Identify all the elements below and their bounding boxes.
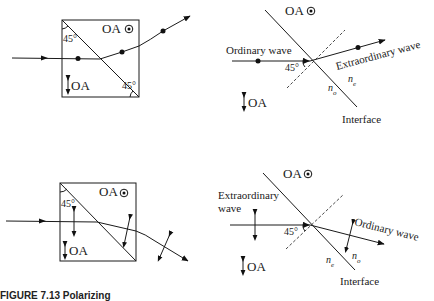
dot-in-circle-icon: [304, 170, 312, 178]
angle-label: 45°: [285, 62, 299, 73]
panel-top-right: OA 45° Ordinary wave Extraordinary wave …: [226, 3, 422, 125]
polarization-dot-icon: [161, 29, 166, 34]
angle-label: 45°: [284, 226, 298, 237]
optic-axis-label-top: OA: [102, 21, 121, 36]
interface-line: [263, 173, 355, 270]
extraordinary-wave-label-line1: Extraordinary: [218, 189, 280, 201]
optic-axis-label-bottom: OA: [248, 95, 267, 110]
extraordinary-wave-label-line2: wave: [218, 202, 241, 214]
beam-direction-arrow-icon: [39, 219, 46, 224]
polarization-dot-icon: [76, 56, 81, 61]
refracted-beam: [97, 222, 188, 261]
angle-arc-top: [62, 26, 68, 29]
optic-axis-label-bottom: OA: [69, 243, 88, 258]
angle-label-top: 45°: [63, 33, 77, 44]
incident-beam: [6, 221, 97, 222]
optic-axis-label-bottom: OA: [247, 259, 266, 274]
polarization-arrow-icon: [124, 217, 130, 245]
polarization-dot-icon: [120, 50, 125, 55]
polarization-dot-icon: [256, 59, 261, 64]
extraordinary-wave-label: Extraordinary wave: [334, 38, 421, 72]
panel-top-left: 45° 45° OA OA: [12, 16, 190, 97]
dot-in-circle-icon: [125, 25, 133, 33]
angle-label-bottom: 45°: [122, 80, 136, 91]
refractive-index-extraordinary: ne: [326, 254, 334, 269]
polarization-arrow-icon: [159, 234, 170, 259]
dot-in-circle-icon: [307, 7, 315, 15]
optic-axis-label-top: OA: [285, 3, 304, 18]
optic-axis-label-top: OA: [99, 184, 118, 199]
interface-label: Interface: [340, 275, 379, 287]
interface-label: Interface: [342, 113, 381, 125]
polarization-dot-icon: [356, 45, 361, 50]
normal-line: [286, 194, 344, 249]
figure-caption: FIGURE 7.13 Polarizing: [0, 290, 111, 301]
refractive-index-ordinary: no: [352, 250, 361, 265]
beam-direction-arrow-icon: [41, 56, 48, 61]
angle-arc-bottom: [130, 91, 133, 97]
angle-label-top: 45°: [61, 198, 75, 209]
incident-beam: [12, 58, 100, 59]
angle-arc-top: [60, 189, 67, 192]
optic-axis-label-bottom: OA: [71, 78, 90, 93]
panel-bottom-right: OA 45° Extraordinary wave Ordinary wave …: [218, 166, 420, 287]
panel-bottom-left: 45° OA OA: [6, 183, 188, 261]
refractive-index-extraordinary: ne: [348, 73, 356, 88]
optic-axis-label-top: OA: [283, 166, 302, 181]
ordinary-wave-label: Ordinary wave: [226, 44, 292, 56]
dot-in-circle-icon: [120, 189, 128, 197]
